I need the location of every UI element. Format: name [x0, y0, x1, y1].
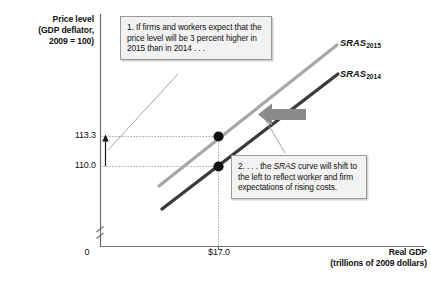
curve-label-sras-2014: SRAS2014 [340, 69, 381, 79]
curve-label-sras-2015: SRAS2015 [340, 38, 381, 48]
curve-label-sras-2014-year: 2014 [366, 73, 381, 80]
x-axis-title-line-2: (trillions of 2009 dollars) [281, 258, 427, 269]
curve-label-sras-2014-base: SRAS [340, 69, 366, 79]
price-increase-arrow-icon [102, 135, 109, 167]
equilibrium-point-2014 [213, 161, 223, 171]
y-axis-title-line-3: 2009 = 100) [6, 36, 94, 47]
callout-1-text: 1. If firms and workers expect that the … [127, 22, 261, 53]
x-tick-label-17: $17.0 [196, 247, 242, 257]
equilibrium-point-2015 [213, 131, 223, 141]
callout-2-text-before: 2. . . . the [238, 161, 274, 171]
shift-arrow-icon [258, 104, 306, 126]
callout-2-text-italic: SRAS [274, 161, 296, 171]
callout-1-leader-line [108, 74, 178, 150]
y-axis-title-line-2: (GDP deflator, [6, 25, 94, 36]
curve-label-sras-2015-base: SRAS [340, 38, 366, 48]
origin-label: 0 [78, 247, 96, 257]
y-axis-title-line-1: Price level [6, 14, 94, 25]
y-tick-label-110-0: 110.0 [52, 160, 96, 170]
curve-label-sras-2015-year: 2015 [366, 42, 381, 49]
y-axis-title: Price level (GDP deflator, 2009 = 100) [6, 14, 94, 47]
figure-container: Price level (GDP deflator, 2009 = 100) R… [0, 0, 431, 287]
y-tick-label-113-3: 113.3 [52, 130, 96, 140]
callout-box-2: 2. . . . the SRAS curve will shift to th… [231, 155, 367, 199]
x-axis-title: Real GDP (trillions of 2009 dollars) [281, 247, 427, 269]
callout-box-1: 1. If firms and workers expect that the … [120, 16, 272, 60]
x-axis-title-line-1: Real GDP [281, 247, 427, 258]
